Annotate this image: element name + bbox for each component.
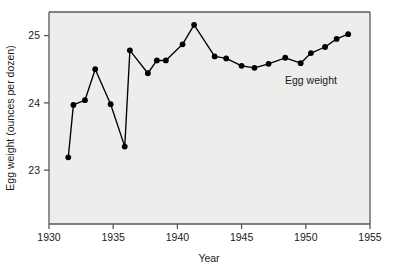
plot-area-background	[49, 12, 370, 224]
x-tick-label: 1935	[102, 231, 126, 243]
y-axis-ticks	[44, 36, 49, 171]
data-point	[127, 47, 133, 53]
series-annotation-egg-weight: Egg weight	[285, 74, 337, 86]
data-point	[308, 50, 314, 56]
data-point	[92, 66, 98, 72]
data-point	[163, 58, 169, 64]
y-tick-label: 23	[28, 164, 40, 176]
data-point	[154, 58, 160, 64]
data-point	[65, 154, 71, 160]
x-tick-label: 1930	[37, 231, 61, 243]
y-tick-label: 24	[28, 97, 40, 109]
data-point	[266, 61, 272, 67]
data-point	[180, 41, 186, 47]
data-point	[122, 144, 128, 150]
x-tick-label: 1940	[166, 231, 190, 243]
data-point	[71, 102, 77, 108]
data-point	[191, 22, 197, 28]
x-tick-label: 1950	[294, 231, 318, 243]
y-axis-tick-labels: 232425	[28, 29, 40, 176]
data-point	[252, 65, 258, 71]
data-point	[223, 56, 229, 62]
x-axis-title: Year	[198, 252, 220, 264]
data-point	[282, 55, 288, 61]
data-point	[145, 70, 151, 76]
data-point	[239, 63, 245, 69]
data-point	[322, 44, 328, 50]
y-tick-label: 25	[28, 29, 40, 41]
data-point	[345, 31, 351, 37]
x-axis-tick-labels: 193019351940194519501955	[37, 231, 382, 243]
x-axis-ticks	[49, 224, 370, 229]
data-point	[212, 54, 218, 60]
data-point	[298, 60, 304, 66]
x-tick-label: 1945	[230, 231, 254, 243]
egg-weight-line-chart: 232425 193019351940194519501955 Egg weig…	[0, 0, 398, 278]
data-point	[82, 97, 88, 103]
y-axis-title: Egg weight (ounces per dozen)	[4, 45, 16, 190]
data-point	[334, 36, 340, 42]
data-point	[108, 101, 114, 107]
chart-figure: 232425 193019351940194519501955 Egg weig…	[0, 0, 398, 278]
x-tick-label: 1955	[358, 231, 382, 243]
